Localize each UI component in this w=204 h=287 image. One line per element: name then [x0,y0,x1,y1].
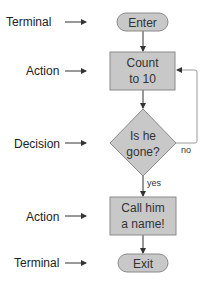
node-gone: Is he gone? [110,109,176,176]
flowchart-canvas: Terminal Action Decision Action Terminal… [0,0,204,287]
legend-terminal-2: Terminal [14,256,86,270]
legend-label: Action [26,210,59,224]
loop-arrowhead-icon [176,67,182,73]
legend-label: Decision [14,137,60,151]
legend-terminal-1: Terminal [6,15,86,29]
legend-label: Terminal [14,256,59,270]
legend-label: Action [26,64,59,78]
node-exit: Exit [118,254,168,272]
legend-action-1: Action [26,64,86,78]
legend-decision: Decision [14,137,86,151]
node-text: Exit [133,257,154,271]
node-text: Call him [121,201,164,215]
node-text: Is he [130,129,156,143]
legend-label: Terminal [6,15,51,29]
node-text: a name! [121,217,164,231]
node-text: Count [126,56,159,70]
edge-gone-count-loop [176,70,197,143]
edge-label-no: no [181,145,191,155]
node-enter: Enter [117,13,168,31]
node-count: Count to 10 [110,52,175,90]
node-call: Call him a name! [110,197,176,235]
edge-label-yes: yes [147,178,162,188]
node-text: gone? [126,145,160,159]
legend-action-2: Action [26,210,86,224]
node-text: Enter [128,16,157,30]
node-text: to 10 [129,72,156,86]
